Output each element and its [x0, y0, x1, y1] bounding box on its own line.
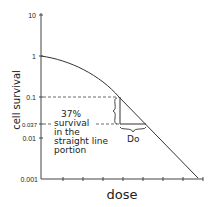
y-tick-0-01: 0.01 — [22, 135, 36, 142]
do-label: Do — [127, 134, 140, 144]
y-tick-0-1: 0.1 — [26, 94, 36, 101]
y-tick-0-037: 0.037 — [22, 122, 38, 128]
y-tick-0-001: 0.001 — [20, 176, 38, 183]
y-tick-1: 1 — [32, 53, 36, 60]
survival-curve-diagram: 10 1 0.1 0.037 0.01 0.001 Do 37% surviva… — [0, 0, 217, 207]
x-axis-title: dose — [107, 187, 138, 202]
horizontal-brace — [120, 127, 146, 132]
y-tick-10: 10 — [28, 12, 36, 19]
note-line-5: portion — [54, 145, 86, 155]
vertical-brace — [113, 98, 117, 124]
y-axis-title: cell survival — [11, 70, 22, 130]
